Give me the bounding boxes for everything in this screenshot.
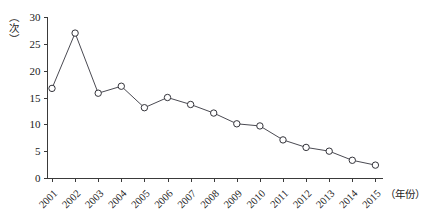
x-tick-labels: 2001200220032004200520062007200820092010… <box>37 187 383 210</box>
y-tick-group: 051015202530 <box>30 11 48 184</box>
data-point <box>164 94 170 100</box>
x-tick-label: 2007 <box>175 188 198 211</box>
x-tick-label: 2006 <box>152 188 175 211</box>
data-point <box>234 121 240 127</box>
data-point <box>118 83 124 89</box>
y-axis: 051015202530 <box>30 11 48 184</box>
chart-canvas: 051015202530 200120022003200420052006200… <box>0 0 437 221</box>
data-point <box>141 105 147 111</box>
x-tick-label: 2012 <box>291 188 314 211</box>
y-tick-label: 0 <box>35 172 41 184</box>
x-axis <box>48 178 384 182</box>
x-tick-label: 2013 <box>314 188 337 211</box>
x-tick-label: 2004 <box>106 187 129 210</box>
data-point <box>372 162 378 168</box>
data-series <box>49 30 379 168</box>
x-tick-label: 2003 <box>83 188 106 211</box>
x-tick-label: 2010 <box>245 188 268 211</box>
y-tick-label: 15 <box>30 92 42 104</box>
data-point <box>349 157 355 163</box>
data-point <box>326 148 332 154</box>
x-tick-label: 2005 <box>129 188 152 211</box>
x-tick-label: 2015 <box>360 188 383 211</box>
series-line <box>52 33 375 165</box>
data-point <box>72 30 78 36</box>
data-point <box>257 123 263 129</box>
data-point <box>280 137 286 143</box>
data-point <box>303 144 309 150</box>
y-tick-label: 10 <box>30 118 42 130</box>
x-tick-label: 2009 <box>222 188 245 211</box>
data-point <box>187 101 193 107</box>
data-point <box>211 110 217 116</box>
line-chart: （次） （年份） 051015202530 200120022003200420… <box>0 0 437 221</box>
x-tick-label: 2014 <box>337 187 360 210</box>
y-tick-label: 25 <box>30 38 42 50</box>
data-point <box>49 85 55 91</box>
data-point <box>95 90 101 96</box>
y-tick-label: 20 <box>30 65 42 77</box>
x-tick-label: 2008 <box>198 188 221 211</box>
x-tick-label: 2001 <box>37 188 60 211</box>
x-tick-label: 2002 <box>60 188 83 211</box>
y-tick-label: 30 <box>30 11 42 23</box>
x-tick-label: 2011 <box>268 188 290 210</box>
series-markers <box>49 30 379 168</box>
y-tick-label: 5 <box>35 145 41 157</box>
